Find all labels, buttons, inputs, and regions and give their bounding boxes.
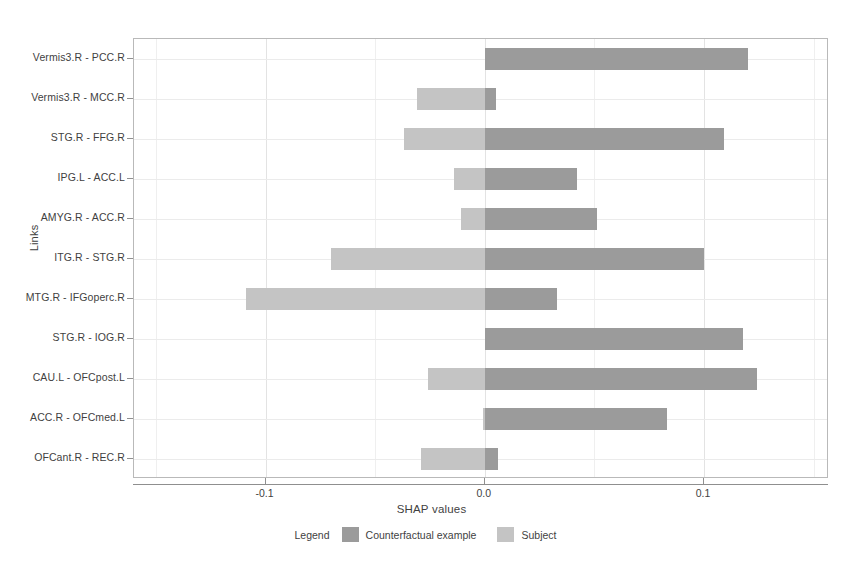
y-axis-tick-label: MTG.R - IFGoperc.R <box>26 291 125 303</box>
bar-counterfactual-example <box>485 168 577 190</box>
y-axis-tick-mark <box>127 218 133 219</box>
bar-counterfactual-example <box>485 368 757 390</box>
bar-counterfactual-example <box>485 48 748 70</box>
bar-row <box>134 448 827 470</box>
y-axis-title: Links <box>28 198 40 278</box>
y-axis-tick-label: CAU.L - OFCpost.L <box>33 371 125 383</box>
bar-subject <box>428 368 485 390</box>
bar-counterfactual-example <box>485 88 496 110</box>
bar-counterfactual-example <box>485 408 667 430</box>
y-axis-tick-mark <box>127 458 133 459</box>
y-axis-tick-mark <box>127 98 133 99</box>
y-axis-tick-label: ITG.R - STG.R <box>54 251 125 263</box>
bar-subject <box>404 128 485 150</box>
bar-row <box>134 88 827 110</box>
y-axis-tick-label: Vermis3.R - MCC.R <box>31 91 125 103</box>
y-axis-tick-mark <box>127 418 133 419</box>
bar-subject <box>461 208 485 230</box>
bar-subject <box>421 448 485 470</box>
bar-row <box>134 128 827 150</box>
legend-label: Counterfactual example <box>366 529 477 541</box>
x-axis-title: SHAP values <box>0 503 863 515</box>
bar-counterfactual-example <box>485 288 557 310</box>
bar-row <box>134 48 827 70</box>
x-axis-line <box>133 484 828 485</box>
bar-subject <box>417 88 485 110</box>
bar-row <box>134 328 827 350</box>
bar-row <box>134 248 827 270</box>
plot-panel <box>133 38 828 478</box>
bar-row <box>134 408 827 430</box>
legend-title: Legend <box>295 529 330 541</box>
bar-row <box>134 168 827 190</box>
y-axis-tick-label: STG.R - FFG.R <box>51 131 125 143</box>
x-axis-tick-label: 0.0 <box>454 487 514 499</box>
y-axis-tick-label: ACC.R - OFCmed.L <box>30 411 125 423</box>
y-axis-tick-mark <box>127 338 133 339</box>
bar-subject <box>454 168 485 190</box>
bar-counterfactual-example <box>485 128 724 150</box>
y-axis-tick-label: STG.R - IOG.R <box>53 331 125 343</box>
y-axis-tick-mark <box>127 378 133 379</box>
bar-counterfactual-example <box>485 328 744 350</box>
y-axis-tick-label: AMYG.R - ACC.R <box>41 211 125 223</box>
y-axis-tick-mark <box>127 138 133 139</box>
bar-subject <box>246 288 485 310</box>
bar-row <box>134 368 827 390</box>
legend-label: Subject <box>521 529 556 541</box>
y-axis-tick-mark <box>127 258 133 259</box>
x-axis-tick-label: -0.1 <box>235 487 295 499</box>
bar-row <box>134 288 827 310</box>
bar-counterfactual-example <box>485 208 597 230</box>
y-axis-tick-mark <box>127 178 133 179</box>
legend-entry[interactable]: Counterfactual example <box>342 527 477 542</box>
bar-counterfactual-example <box>485 448 498 470</box>
y-axis-tick-label: IPG.L - ACC.L <box>58 171 125 183</box>
legend-entry[interactable]: Subject <box>497 527 556 542</box>
shap-bar-chart-figure: Links Vermis3.R - PCC.RVermis3.R - MCC.R… <box>0 0 863 571</box>
y-axis-tick-mark <box>127 298 133 299</box>
x-axis-tick-label: 0.1 <box>673 487 733 499</box>
chart-legend: Legend Counterfactual exampleSubject <box>0 527 863 542</box>
bar-subject <box>331 248 484 270</box>
y-axis-tick-label: OFCant.R - REC.R <box>34 451 125 463</box>
legend-swatch <box>497 527 514 542</box>
y-axis-tick-label: Vermis3.R - PCC.R <box>33 51 125 63</box>
legend-swatch <box>342 527 359 542</box>
bar-row <box>134 208 827 230</box>
y-axis-tick-mark <box>127 58 133 59</box>
bar-counterfactual-example <box>485 248 704 270</box>
